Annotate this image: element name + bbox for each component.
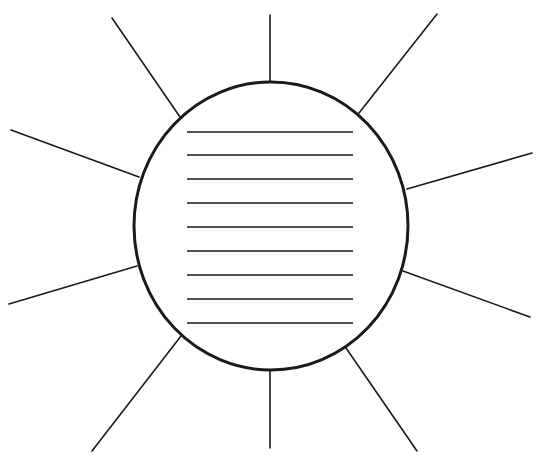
- ray-right-upper: [407, 153, 532, 189]
- ray-top-right: [359, 14, 437, 113]
- ray-right-lower: [403, 271, 530, 317]
- sun-organizer-diagram: [0, 0, 543, 459]
- ray-top-left: [112, 18, 180, 117]
- ray-bottom-right: [346, 348, 417, 451]
- center-circle: [134, 82, 408, 370]
- ray-left-upper: [11, 130, 139, 177]
- ray-bottom-left: [92, 336, 181, 451]
- ray-left-lower: [9, 266, 137, 304]
